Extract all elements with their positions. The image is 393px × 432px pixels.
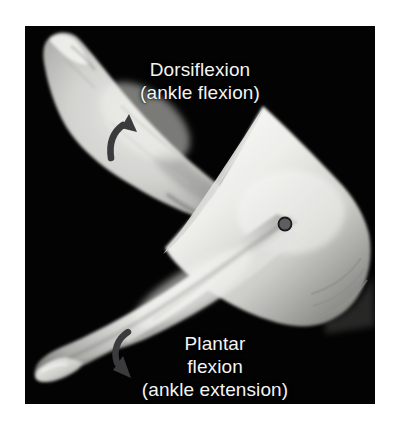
joint-axis-marker: [278, 217, 293, 232]
plantarflexion-label-line2: flexion: [55, 355, 375, 378]
dorsiflexion-label: Dorsiflexion (ankle flexion): [25, 58, 375, 104]
photo-panel: Dorsiflexion (ankle flexion) Plantar fle…: [25, 26, 375, 404]
plantarflexion-label: Plantar flexion (ankle extension): [55, 332, 375, 401]
dorsiflexion-label-line1: Dorsiflexion: [150, 59, 250, 80]
plantarflexion-label-line3: (ankle extension): [55, 378, 375, 401]
dorsiflexion-label-line2: (ankle flexion): [25, 81, 375, 104]
figure-root: Dorsiflexion (ankle flexion) Plantar fle…: [0, 0, 393, 432]
plantarflexion-label-line1: Plantar: [185, 333, 246, 354]
